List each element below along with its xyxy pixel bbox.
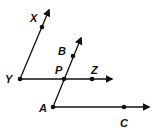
diagram-svg: X Y B P Z A C	[0, 0, 155, 135]
label-a: A	[38, 102, 47, 114]
point-c	[122, 105, 127, 110]
geometry-diagram: X Y B P Z A C	[0, 0, 155, 135]
label-p: P	[55, 64, 63, 76]
point-z	[90, 77, 95, 82]
label-c: C	[120, 117, 129, 129]
label-b: B	[58, 45, 66, 57]
point-x	[40, 25, 45, 30]
label-y: Y	[5, 73, 14, 85]
point-y	[18, 77, 23, 82]
point-a	[51, 105, 56, 110]
label-z: Z	[90, 64, 99, 76]
point-p	[62, 77, 67, 82]
label-x: X	[29, 12, 38, 24]
point-b	[71, 54, 76, 59]
